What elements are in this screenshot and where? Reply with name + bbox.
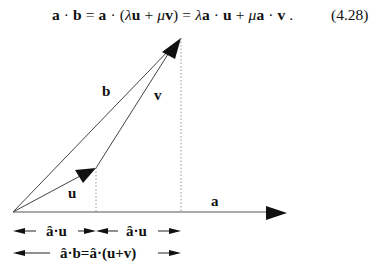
arrow-left-icon (13, 250, 25, 256)
arrow-left-icon (13, 228, 25, 234)
measure-label: â·b=â·(u+v) (60, 245, 136, 262)
measure-proj-u-2: â·u (96, 223, 181, 239)
arrow-left-icon (96, 228, 108, 234)
label-a: a (211, 193, 219, 209)
vector-u (13, 168, 96, 212)
vector-v (96, 38, 181, 168)
label-u: u (68, 185, 76, 201)
arrowhead-icon (75, 168, 96, 183)
measure-proj-u-1: â·u (13, 223, 96, 239)
measure-proj-b: â·b=â·(u+v) (13, 245, 181, 262)
arrow-right-icon (169, 228, 181, 234)
vector-b (13, 47, 172, 212)
measure-label: â·u (46, 223, 67, 239)
label-b: b (102, 83, 110, 99)
measure-label: â·u (126, 223, 147, 239)
arrowhead-icon (266, 206, 287, 220)
arrowhead-icon (162, 38, 181, 59)
arrow-right-icon (84, 228, 96, 234)
arrow-right-icon (169, 250, 181, 256)
vector-a (13, 206, 287, 220)
vector-projection-diagram: b v u a â·u â·u â·b=â·(u+v) (0, 0, 390, 280)
label-v: v (154, 87, 162, 103)
